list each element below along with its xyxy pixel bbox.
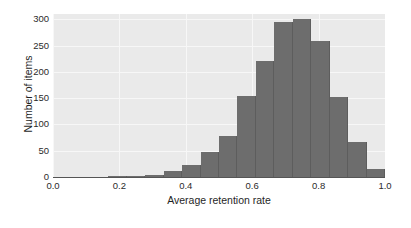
histogram-bar [237,96,255,178]
y-axis-label: Number of items [22,19,34,169]
x-axis-label: Average retention rate [53,194,385,206]
histogram-bar [367,169,385,177]
x-tick-label: 1.0 [365,180,405,191]
x-axis-line [53,177,385,178]
histogram-bar [293,19,311,177]
x-tick-label: 0.6 [232,180,272,191]
x-tick-label: 0.2 [99,180,139,191]
histogram-bar [274,22,292,177]
plot-area [53,14,385,177]
histogram-bar [330,97,348,177]
x-tick-label: 0.8 [299,180,339,191]
histogram-bar [201,152,219,177]
histogram-bar [219,136,237,177]
histogram-bar [348,142,366,177]
histogram-bar [256,61,274,177]
histogram-bar [182,165,200,177]
x-tick-label: 0.4 [166,180,206,191]
histogram-figure: 0.00.20.40.60.81.0 050100150200250300 Av… [0,0,411,228]
histogram-bar [311,41,329,177]
y-tick-label: 0 [9,171,49,182]
histogram-bars [53,14,385,177]
